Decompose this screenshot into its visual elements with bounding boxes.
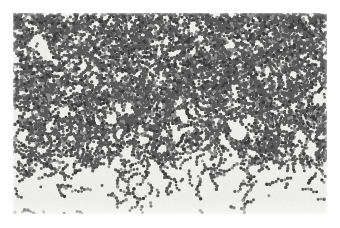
- micrograph-image: [13, 13, 327, 214]
- particle-field-canvas: [13, 13, 327, 214]
- micrograph-page: Particle aggregation micrograph Grayscal…: [0, 0, 340, 228]
